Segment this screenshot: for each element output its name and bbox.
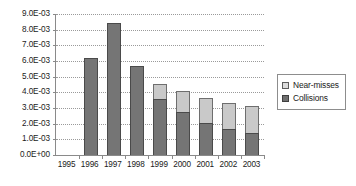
y-axis-tick-label: 4.0E-03 [22,88,50,96]
x-tick-mark [195,155,196,159]
x-tick-mark [148,155,149,159]
y-axis-labels: 0.0E+001.0E-032.0E-033.0E-034.0E-035.0E-… [0,0,54,186]
y-axis-tick-label: 3.0E-03 [22,104,50,112]
bar-segment-collisions [107,23,121,155]
bar-segment-collisions [245,133,259,155]
bar-segment-collisions [153,99,167,155]
y-axis-tick-label: 8.0E-03 [22,26,50,34]
y-axis-tick-label: 7.0E-03 [22,41,50,49]
x-axis-tick-label: 2001 [196,160,214,169]
x-axis-tick-label: 1996 [81,160,99,169]
bar-series-group [56,14,264,155]
x-axis-tick-label: 1998 [127,160,145,169]
bar-column [222,103,236,155]
bar-column [176,91,190,155]
x-tick-mark [264,155,265,159]
x-axis-tick-label: 2000 [173,160,191,169]
x-tick-mark [218,155,219,159]
x-axis-tick-label: 2002 [220,160,238,169]
x-axis-labels: 199519961997199819992000200120022003 [55,160,263,176]
bar-segment-collisions [199,123,213,155]
legend-label-near-misses: Near-misses [293,81,339,90]
near-misses-swatch-icon [282,82,289,89]
legend-item-collisions: Collisions [282,92,339,105]
bar-segment-near-misses [153,84,167,99]
chart-legend: Near-misses Collisions [277,74,346,110]
bar-segment-near-misses [199,98,213,123]
y-axis-tick-label: 1.0E-03 [22,135,50,143]
bar-segment-collisions [222,129,236,155]
x-tick-mark [125,155,126,159]
bar-segment-collisions [130,66,144,155]
y-axis-tick-label: 9.0E-03 [22,10,50,18]
bar-segment-near-misses [222,103,236,130]
x-tick-mark [102,155,103,159]
y-axis-tick-label: 6.0E-03 [22,57,50,65]
bar-column [84,58,98,155]
bar-column [153,84,167,155]
bar-column [107,23,121,155]
y-axis-tick-label: 5.0E-03 [22,73,50,81]
x-tick-mark [172,155,173,159]
legend-item-near-misses: Near-misses [282,79,339,92]
bar-segment-near-misses [245,106,259,133]
x-axis-tick-label: 1995 [58,160,76,169]
legend-label-collisions: Collisions [293,94,328,103]
bar-column [199,98,213,155]
x-axis-tick-label: 2003 [243,160,261,169]
bar-segment-collisions [176,112,190,155]
y-axis-tick-label: 0.0E+00 [20,151,50,159]
x-axis-tick-label: 1999 [150,160,168,169]
bar-column [245,106,259,155]
bar-segment-collisions [84,58,98,155]
bar-segment-near-misses [176,91,190,112]
collisions-swatch-icon [282,95,289,102]
x-tick-mark [241,155,242,159]
plot-area [55,14,264,156]
x-tick-mark [79,155,80,159]
y-tick-mark [53,155,56,156]
x-axis-tick-label: 1997 [104,160,122,169]
chart-container: 0.0E+001.0E-032.0E-033.0E-034.0E-035.0E-… [0,0,356,186]
y-axis-tick-label: 2.0E-03 [22,120,50,128]
bar-column [130,66,144,155]
